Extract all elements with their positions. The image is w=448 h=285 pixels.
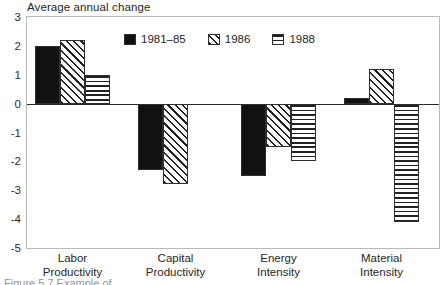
y-axis-tick-label: -3 — [11, 184, 21, 196]
y-axis-tick-label: -5 — [11, 242, 21, 254]
bar — [291, 104, 316, 162]
bar — [266, 104, 291, 147]
x-axis-category-label: LaborProductivity — [43, 252, 102, 279]
y-axis-tick-label: -4 — [11, 213, 21, 225]
chart-title: Average annual change — [27, 1, 150, 14]
x-axis-category-line1: Labor — [43, 252, 102, 266]
chart-figure: Average annual change 3210-1-2-3-4-5 198… — [0, 0, 448, 285]
x-axis-category-line1: Capital — [146, 252, 205, 266]
zero-baseline — [27, 104, 439, 105]
x-axis-category-label: EnergyIntensity — [257, 252, 300, 279]
x-axis-category-line1: Energy — [257, 252, 300, 266]
legend-swatch-diagonal-hatch-icon — [208, 34, 220, 45]
bar — [344, 98, 369, 103]
bar — [60, 40, 85, 104]
bar — [369, 69, 394, 104]
legend-label: 1981–85 — [141, 33, 186, 45]
bar — [163, 104, 188, 185]
legend-label: 1988 — [289, 33, 315, 45]
legend-entry: 1988 — [272, 33, 315, 45]
legend-label: 1986 — [225, 33, 251, 45]
x-axis-category-label: MaterialIntensity — [360, 252, 403, 279]
y-axis-tick-label: 1 — [15, 69, 21, 81]
y-axis-tick-label: -1 — [11, 127, 21, 139]
bar — [35, 46, 60, 104]
legend-entry: 1981–85 — [124, 33, 186, 45]
x-axis-category-label: CapitalProductivity — [146, 252, 205, 279]
bar — [241, 104, 266, 176]
y-axis-tick-label: 3 — [15, 11, 21, 23]
legend-swatch-solid-icon — [124, 34, 136, 45]
bar — [394, 104, 419, 222]
figure-caption: Figure 5.7 Example of … — [4, 277, 304, 285]
bar — [138, 104, 163, 170]
y-axis-tick-label: -2 — [11, 155, 21, 167]
legend-swatch-horizontal-lines-icon — [272, 34, 284, 45]
y-axis: 3210-1-2-3-4-5 — [0, 16, 24, 249]
x-axis-category-line1: Material — [360, 252, 403, 266]
y-axis-tick-label: 2 — [15, 40, 21, 52]
chart-legend: 1981–8519861988 — [124, 33, 315, 45]
bar — [85, 75, 110, 104]
plot-area — [27, 17, 439, 248]
x-axis: LaborProductivityCapitalProductivityEner… — [27, 252, 439, 280]
x-axis-category-line2: Intensity — [360, 266, 403, 280]
legend-entry: 1986 — [208, 33, 251, 45]
y-axis-tick-label: 0 — [15, 98, 21, 110]
